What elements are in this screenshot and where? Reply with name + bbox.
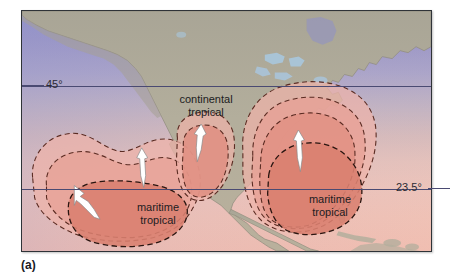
- latitude-line-23-5: [22, 189, 431, 190]
- latitude-label-45: 45°: [46, 78, 63, 90]
- figure-container: maritime tropical continental tropical m…: [0, 0, 453, 280]
- latitude-line-45: [22, 86, 431, 87]
- map-frame: maritime tropical continental tropical m…: [21, 10, 432, 252]
- latitude-label-23-5: 23.5°: [396, 181, 422, 193]
- airmass-continental-tropical: [176, 112, 234, 201]
- airmass-label-line1: maritime: [110, 201, 206, 214]
- airmass-label-line1: continental: [152, 93, 260, 106]
- airmass-label-line1: maritime: [282, 193, 378, 206]
- airmass-label-gulf-maritime-tropical: maritime tropical: [282, 193, 378, 219]
- latitude-tick-right-23-5: [428, 188, 450, 189]
- latitude-tick-left-45: [22, 85, 44, 86]
- figure-caption: (a): [21, 258, 36, 272]
- airmass-label-continental-tropical: continental tropical: [152, 93, 260, 119]
- airmass-label-pacific-maritime-tropical: maritime tropical: [110, 201, 206, 227]
- airmass-label-line2: tropical: [282, 206, 378, 219]
- airmass-label-line2: tropical: [110, 214, 206, 227]
- airmass-label-line2: tropical: [152, 106, 260, 119]
